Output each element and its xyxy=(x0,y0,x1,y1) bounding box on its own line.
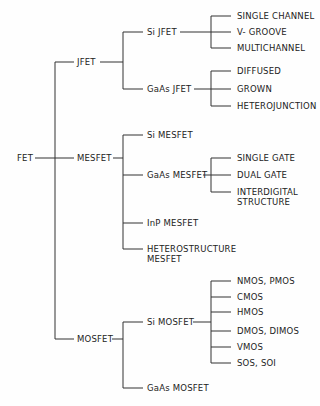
node-multichannel: MULTICHANNEL xyxy=(237,43,305,53)
node-dual-gate: DUAL GATE xyxy=(237,170,287,180)
fet-taxonomy-diagram: FETJFETMESFETMOSFETSi JFETGaAs JFETSi ME… xyxy=(0,0,320,406)
node-gaas-jfet: GaAs JFET xyxy=(147,84,192,94)
node-single-gate: SINGLE GATE xyxy=(237,153,295,163)
node-si-mesfet: Si MESFET xyxy=(147,130,193,140)
node-vmos: VMOS xyxy=(237,342,263,352)
node-v-groove: V- GROOVE xyxy=(237,27,287,37)
node-gaas-mosfet: GaAs MOSFET xyxy=(147,383,209,393)
node-hetero-mesfet-2: MESFET xyxy=(147,254,182,264)
node-mosfet: MOSFET xyxy=(77,334,113,344)
node-heterojunction: HETEROJUNCTION xyxy=(237,101,317,111)
node-hetero-mesfet-1: HETEROSTRUCTURE xyxy=(147,244,236,254)
node-interdigital-2: STRUCTURE xyxy=(237,197,290,207)
node-single-channel: SINGLE CHANNEL xyxy=(237,11,314,21)
node-fet: FET xyxy=(17,153,33,163)
node-gaas-mesfet: GaAs MESFET xyxy=(147,170,208,180)
node-grown: GROWN xyxy=(237,84,272,94)
node-dmos-dimos: DMOS, DIMOS xyxy=(237,326,299,336)
node-mesfet: MESFET xyxy=(77,153,112,163)
node-sos-soi: SOS, SOI xyxy=(237,358,276,368)
node-si-mosfet: Si MOSFET xyxy=(147,317,194,327)
node-interdigital-1: INTERDIGITAL xyxy=(237,187,298,197)
node-si-jfet: Si JFET xyxy=(147,27,177,37)
node-hmos: HMOS xyxy=(237,307,264,317)
node-cmos: CMOS xyxy=(237,292,263,302)
node-nmos-pmos: NMOS, PMOS xyxy=(237,276,295,286)
node-inp-mesfet: InP MESFET xyxy=(147,218,198,228)
node-jfet: JFET xyxy=(77,57,96,67)
node-diffused: DIFFUSED xyxy=(237,66,281,76)
